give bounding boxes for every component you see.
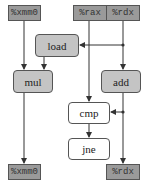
dataflow-diagram: %xmm0 %rax %rdx load mul add cmp jne %xm… [0,0,148,194]
output-register-rdx: %rdx [106,164,140,180]
op-jne: jne [68,138,110,160]
input-register-xmm0: %xmm0 [8,5,41,21]
input-register-rdx: %rdx [106,5,140,21]
op-load: load [35,34,79,57]
op-add: add [101,70,141,93]
input-register-rax: %rax [73,5,107,21]
op-cmp: cmp [68,102,110,124]
output-register-xmm0: %xmm0 [8,164,41,180]
op-mul: mul [13,70,53,93]
